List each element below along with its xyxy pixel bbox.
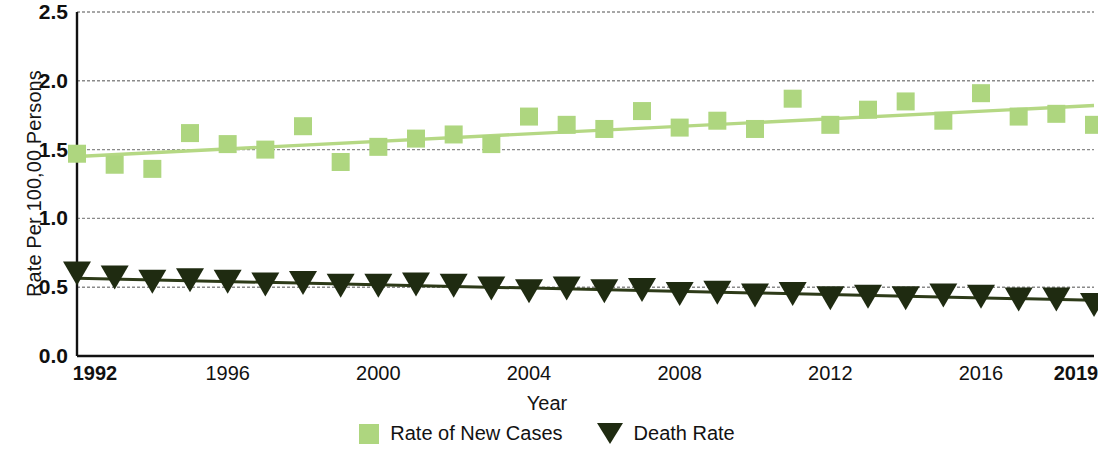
data-point-death-rate [816, 286, 844, 310]
data-point-new-cases [143, 160, 161, 178]
legend-item-label: Rate of New Cases [390, 422, 562, 445]
data-point-new-cases [256, 141, 274, 159]
data-point-death-rate [892, 286, 920, 310]
data-point-new-cases [859, 101, 877, 119]
data-point-new-cases [219, 135, 237, 153]
y-tick-label: 2.0 [22, 70, 68, 91]
data-point-new-cases [934, 112, 952, 130]
data-point-new-cases [294, 117, 312, 135]
data-point-new-cases [1085, 116, 1098, 134]
y-tick-label: 1.0 [22, 207, 68, 228]
x-tick-label: 1996 [205, 362, 250, 385]
x-tick-label: 2000 [356, 362, 401, 385]
data-point-new-cases [181, 124, 199, 142]
plot-svg [77, 12, 1094, 356]
x-tick-label: 2016 [959, 362, 1004, 385]
data-point-new-cases [106, 156, 124, 174]
y-tick-label: 1.5 [22, 139, 68, 160]
data-point-new-cases [68, 145, 86, 163]
data-point-new-cases [633, 102, 651, 120]
y-tick-label: 0.5 [22, 276, 68, 297]
data-point-new-cases [369, 138, 387, 156]
data-point-new-cases [897, 92, 915, 110]
legend-item-label: Death Rate [634, 422, 735, 445]
triangle-down-marker [597, 423, 623, 444]
data-point-new-cases [972, 84, 990, 102]
x-axis-title: Year [0, 392, 1094, 415]
data-point-death-rate [741, 283, 769, 307]
data-point-death-rate [251, 272, 279, 296]
legend-item[interactable]: Rate of New Cases [359, 422, 562, 445]
data-point-death-rate [1080, 293, 1098, 317]
data-point-new-cases [558, 116, 576, 134]
chart-legend: Rate of New CasesDeath Rate [0, 422, 1094, 445]
data-point-death-rate [666, 282, 694, 306]
x-tick-label: 2004 [507, 362, 552, 385]
data-point-new-cases [821, 116, 839, 134]
data-point-new-cases [1047, 105, 1065, 123]
y-tick-label: 2.5 [22, 1, 68, 22]
data-point-new-cases [784, 90, 802, 108]
data-point-new-cases [482, 135, 500, 153]
data-point-new-cases [746, 120, 764, 138]
x-tick-label: 2012 [808, 362, 853, 385]
data-point-new-cases [1010, 108, 1028, 126]
data-point-death-rate [138, 270, 166, 294]
x-tick-label: 1992 [73, 362, 118, 385]
data-point-new-cases [708, 112, 726, 130]
square-marker [359, 424, 379, 444]
data-point-new-cases [671, 119, 689, 137]
x-axis-tick-labels: 19921996200020042008201220162019 [0, 362, 1094, 392]
x-tick-label: 2008 [657, 362, 702, 385]
data-point-new-cases [332, 153, 350, 171]
x-tick-label: 2019 [1054, 362, 1098, 385]
plot-area [77, 12, 1094, 356]
data-point-death-rate [327, 274, 355, 298]
data-point-new-cases [445, 125, 463, 143]
data-point-new-cases [407, 130, 425, 148]
data-point-new-cases [520, 108, 538, 126]
data-point-death-rate [515, 279, 543, 303]
legend-item[interactable]: Death Rate [597, 422, 735, 445]
data-point-new-cases [595, 120, 613, 138]
